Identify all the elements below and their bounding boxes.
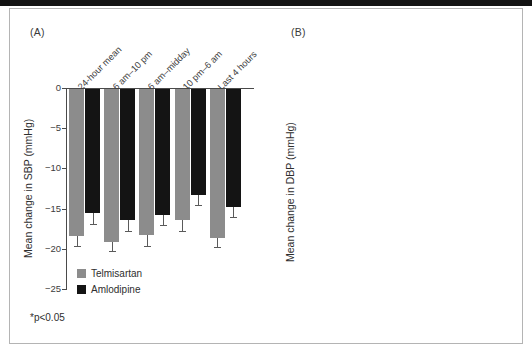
significance-footnote: *p<0.05 — [30, 312, 65, 323]
error-bar — [128, 220, 129, 231]
y-axis-tick — [62, 289, 66, 290]
error-bar-cap — [144, 246, 151, 247]
legend-label-amlodipine: Amlodipine — [91, 284, 140, 295]
error-bar-cap — [160, 225, 167, 226]
error-bar — [147, 235, 148, 245]
y-axis-tick-label: −5 — [21, 122, 61, 133]
legend-swatch-telmisartan — [77, 269, 86, 278]
error-bar — [217, 238, 218, 248]
bar-amlodipine — [226, 89, 241, 207]
y-axis-tick — [62, 88, 66, 89]
bar-telmisartan — [210, 89, 225, 238]
error-bar-cap — [109, 251, 116, 252]
y-axis-tick — [62, 209, 66, 210]
y-axis-tick — [62, 168, 66, 169]
error-bar — [112, 242, 113, 252]
figure-root: (A) Mean change in SBP (mmHg) 0−5−10−15−… — [0, 0, 532, 353]
legend-swatch-amlodipine — [77, 285, 86, 294]
legend-label-telmisartan: Telmisartan — [91, 268, 142, 279]
y-axis-tick-label: −20 — [21, 243, 61, 254]
error-bar-cap — [125, 231, 132, 232]
error-bar — [233, 207, 234, 217]
panel-a-plot-area: 0−5−10−15−20−2524-hour mean6 am–10 pm6 a… — [0, 0, 266, 353]
error-bar — [93, 213, 94, 223]
error-bar-cap — [230, 217, 237, 218]
error-bar — [182, 220, 183, 231]
bar-telmisartan — [69, 89, 84, 236]
y-axis-tick-label: −15 — [21, 203, 61, 214]
error-bar-cap — [74, 246, 81, 247]
bar-telmisartan — [175, 89, 190, 220]
y-axis-tick-label: −10 — [21, 162, 61, 173]
bar-telmisartan — [139, 89, 154, 235]
error-bar-cap — [195, 205, 202, 206]
panel-b-plot-area: 0−2−4−6−8−10−12−1424-hour mean6 am–10 pm… — [266, 0, 532, 353]
bar-amlodipine — [191, 89, 206, 195]
error-bar-cap — [90, 224, 97, 225]
error-bar — [77, 236, 78, 246]
legend-item-amlodipine: Amlodipine — [77, 284, 140, 295]
error-bar — [198, 195, 199, 205]
error-bar-cap — [214, 247, 221, 248]
legend-item-telmisartan: Telmisartan — [77, 268, 142, 279]
y-axis-line — [66, 88, 67, 290]
bar-amlodipine — [155, 89, 170, 215]
y-axis-tick — [62, 128, 66, 129]
bar-amlodipine — [120, 89, 135, 220]
y-axis-tick-label: −25 — [21, 283, 61, 294]
error-bar-cap — [179, 231, 186, 232]
y-axis-tick — [62, 249, 66, 250]
panel-a: (A) Mean change in SBP (mmHg) 0−5−10−15−… — [0, 0, 266, 353]
error-bar — [163, 215, 164, 225]
bar-telmisartan — [104, 89, 119, 242]
panel-b: (B) Mean change in DBP (mmHg) 0−2−4−6−8−… — [266, 0, 532, 353]
bar-amlodipine — [85, 89, 100, 213]
y-axis-tick-label: 0 — [21, 82, 61, 93]
